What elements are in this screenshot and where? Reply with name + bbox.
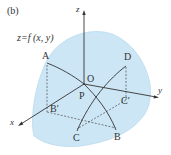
point-a-label: A xyxy=(42,51,49,61)
point-c-label: C xyxy=(73,133,80,143)
surface-figure xyxy=(0,0,171,155)
y-axis-label: y xyxy=(158,86,162,95)
equation-label: z=f (x, y) xyxy=(17,33,53,43)
surface-patch xyxy=(33,32,151,147)
point-p-label: P xyxy=(79,91,85,101)
origin-label: O xyxy=(87,74,94,84)
x-axis-label: x xyxy=(10,118,14,127)
point-bprime-label: B′ xyxy=(50,104,59,114)
panel-label: (b) xyxy=(7,6,19,16)
point-d-label: D xyxy=(124,52,131,62)
z-axis-label: z xyxy=(76,5,80,14)
origin-point xyxy=(83,83,85,85)
z-axis-arrow xyxy=(82,10,85,15)
point-b-label: B xyxy=(114,132,121,142)
point-cprime-label: C′ xyxy=(121,96,130,106)
x-axis-arrow xyxy=(18,122,23,127)
y-axis-arrow xyxy=(154,95,159,98)
